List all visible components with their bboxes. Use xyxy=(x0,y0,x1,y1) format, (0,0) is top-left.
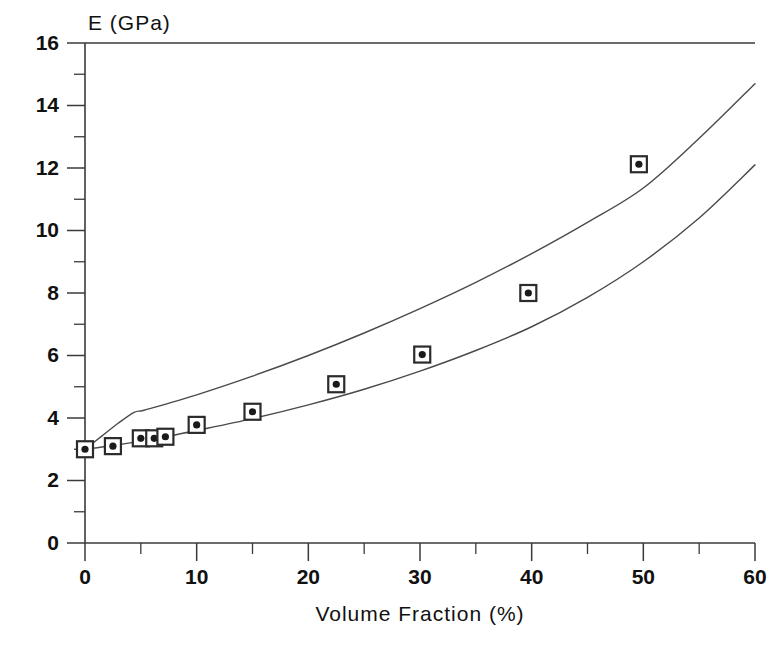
chart-background xyxy=(0,0,774,651)
y-tick-label: 12 xyxy=(36,156,59,179)
marker-center-dot xyxy=(249,408,256,415)
marker-center-dot xyxy=(81,446,88,453)
marker-center-dot xyxy=(137,435,144,442)
data-point-marker xyxy=(631,156,647,172)
marker-center-dot xyxy=(162,433,169,440)
y-tick-label: 4 xyxy=(47,406,59,429)
data-point-marker xyxy=(328,376,344,392)
data-point-marker xyxy=(189,417,205,433)
data-point-marker xyxy=(77,441,93,457)
y-tick-label: 14 xyxy=(36,93,60,116)
marker-center-dot xyxy=(419,351,426,358)
elastic-modulus-vs-volume-fraction-chart: 0102030405060 0246810121416 E (GPa) Volu… xyxy=(0,0,774,651)
x-tick-label: 30 xyxy=(408,565,431,588)
y-tick-label: 2 xyxy=(47,468,59,491)
x-tick-label: 50 xyxy=(632,565,655,588)
x-axis-title: Volume Fraction (%) xyxy=(315,602,524,625)
chart-figure: 0102030405060 0246810121416 E (GPa) Volu… xyxy=(0,0,774,651)
data-point-marker xyxy=(414,347,430,363)
data-point-marker xyxy=(105,438,121,454)
y-tick-label: 16 xyxy=(36,31,59,54)
x-tick-label: 40 xyxy=(520,565,543,588)
data-point-marker xyxy=(245,404,261,420)
x-tick-label: 10 xyxy=(185,565,208,588)
x-tick-label: 20 xyxy=(297,565,320,588)
marker-center-dot xyxy=(525,289,532,296)
y-tick-label: 0 xyxy=(47,531,59,554)
data-point-marker xyxy=(157,429,173,445)
x-tick-label: 60 xyxy=(743,565,766,588)
x-tick-label: 0 xyxy=(79,565,91,588)
marker-center-dot xyxy=(193,421,200,428)
marker-center-dot xyxy=(635,161,642,168)
marker-center-dot xyxy=(109,443,116,450)
y-axis-title: E (GPa) xyxy=(88,11,171,34)
y-tick-label: 10 xyxy=(36,218,59,241)
y-tick-label: 6 xyxy=(47,343,59,366)
marker-center-dot xyxy=(333,381,340,388)
y-tick-label: 8 xyxy=(47,281,59,304)
data-point-marker xyxy=(520,285,536,301)
